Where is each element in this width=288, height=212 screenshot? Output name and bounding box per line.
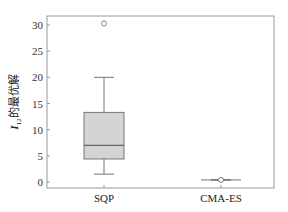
box-sqp [84,21,124,174]
boxplot-chart: 051015202530 SQPCMA-ES I12的最优解 [0,0,288,212]
y-tick-label: 10 [32,124,44,136]
svg-text:I12的最优解: I12的最优解 [7,74,23,130]
outlier-point [102,21,107,26]
x-category-label: CMA-ES [200,192,242,204]
plot-frame [47,16,274,188]
y-tick-label: 15 [32,98,44,110]
box-cma-es [201,177,241,182]
x-category-label: SQP [94,192,114,204]
y-tick-label: 5 [38,150,44,162]
y-axis-label: I12的最优解 [7,74,23,130]
box-series [84,21,241,182]
y-tick-label: 30 [32,19,44,31]
y-tick-label: 20 [32,71,44,83]
y-tick-label: 25 [32,45,44,57]
y-tick-label: 0 [38,176,44,188]
